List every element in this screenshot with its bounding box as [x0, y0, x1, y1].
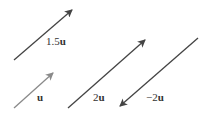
arrow-u — [14, 73, 53, 108]
label-neg-2u: −2u — [146, 92, 164, 103]
arrow-2u — [68, 40, 145, 108]
label-1-5u: 1.5u — [46, 36, 66, 47]
label-u: u — [37, 92, 43, 103]
coefficient: −2 — [146, 91, 158, 103]
vector-symbol: u — [158, 91, 164, 103]
vector-arrows — [0, 0, 210, 117]
coefficient: 1.5 — [46, 35, 60, 47]
vector-symbol: u — [99, 91, 105, 103]
vector-diagram: 1.5u u 2u −2u — [0, 0, 210, 117]
vector-symbol: u — [37, 91, 43, 103]
vector-symbol: u — [60, 35, 66, 47]
label-2u: 2u — [93, 92, 105, 103]
